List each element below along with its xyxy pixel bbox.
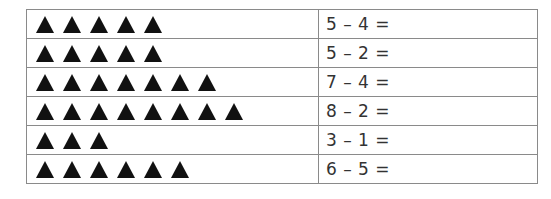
- triangle-icon: [63, 74, 81, 91]
- worksheet-body: 5 – 4 =5 – 2 =7 – 4 =8 – 2 =3 – 1 =6 – 5…: [27, 10, 538, 184]
- triangle-icon: [144, 45, 162, 62]
- triangle-icon: [144, 161, 162, 178]
- triangle-icon: [144, 74, 162, 91]
- worksheet-row: 3 – 1 =: [27, 126, 538, 155]
- triangle-icon: [36, 74, 54, 91]
- triangle-group: [36, 45, 318, 62]
- triangle-group: [36, 74, 318, 91]
- triangle-icon: [198, 103, 216, 120]
- triangle-group: [36, 16, 318, 33]
- triangle-icon: [36, 132, 54, 149]
- equation-cell: 3 – 1 =: [319, 126, 538, 155]
- equation-cell: 8 – 2 =: [319, 97, 538, 126]
- triangle-group: [36, 103, 318, 120]
- triangle-icon: [36, 16, 54, 33]
- equation-cell: 5 – 4 =: [319, 10, 538, 39]
- equation-cell: 5 – 2 =: [319, 39, 538, 68]
- triangle-icon: [90, 74, 108, 91]
- triangle-icon: [63, 16, 81, 33]
- triangle-icon: [36, 45, 54, 62]
- triangle-icon: [171, 103, 189, 120]
- triangle-icon: [36, 161, 54, 178]
- triangle-count-cell: [27, 39, 319, 68]
- triangle-group: [36, 132, 318, 149]
- triangle-icon: [90, 103, 108, 120]
- triangle-count-cell: [27, 97, 319, 126]
- triangle-icon: [63, 132, 81, 149]
- equation-cell: 6 – 5 =: [319, 155, 538, 184]
- subtraction-worksheet-table: 5 – 4 =5 – 2 =7 – 4 =8 – 2 =3 – 1 =6 – 5…: [26, 9, 538, 184]
- triangle-icon: [117, 16, 135, 33]
- triangle-icon: [198, 74, 216, 91]
- worksheet-row: 8 – 2 =: [27, 97, 538, 126]
- triangle-count-cell: [27, 68, 319, 97]
- triangle-icon: [117, 45, 135, 62]
- triangle-count-cell: [27, 126, 319, 155]
- triangle-group: [36, 161, 318, 178]
- triangle-icon: [90, 161, 108, 178]
- worksheet-row: 5 – 2 =: [27, 39, 538, 68]
- triangle-icon: [144, 16, 162, 33]
- triangle-count-cell: [27, 10, 319, 39]
- triangle-count-cell: [27, 155, 319, 184]
- equation-cell: 7 – 4 =: [319, 68, 538, 97]
- triangle-icon: [117, 103, 135, 120]
- worksheet-row: 5 – 4 =: [27, 10, 538, 39]
- triangle-icon: [144, 103, 162, 120]
- triangle-icon: [225, 103, 243, 120]
- triangle-icon: [171, 161, 189, 178]
- worksheet-row: 6 – 5 =: [27, 155, 538, 184]
- triangle-icon: [63, 161, 81, 178]
- triangle-icon: [63, 103, 81, 120]
- triangle-icon: [90, 45, 108, 62]
- triangle-icon: [63, 45, 81, 62]
- triangle-icon: [171, 74, 189, 91]
- triangle-icon: [117, 74, 135, 91]
- triangle-icon: [117, 161, 135, 178]
- triangle-icon: [36, 103, 54, 120]
- triangle-icon: [90, 16, 108, 33]
- worksheet-row: 7 – 4 =: [27, 68, 538, 97]
- triangle-icon: [90, 132, 108, 149]
